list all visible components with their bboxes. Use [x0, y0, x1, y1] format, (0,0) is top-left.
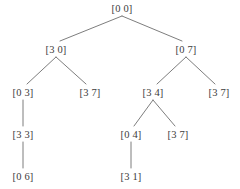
tree-node: [3 3] — [12, 129, 33, 140]
tree-node: [0 4] — [120, 129, 141, 140]
tree-edge — [56, 57, 86, 84]
tree-diagram: [0 0][3 0][0 7][0 3][3 7][3 4][3 7][3 3]… — [0, 0, 240, 189]
tree-edge — [134, 100, 153, 126]
tree-edge — [122, 16, 182, 41]
tree-node: [3 7] — [208, 87, 229, 98]
tree-node: [3 7] — [167, 129, 188, 140]
tree-edge — [27, 57, 56, 84]
tree-edge — [60, 16, 122, 41]
tree-node: [0 7] — [175, 44, 196, 55]
tree-node: [0 0] — [111, 3, 132, 14]
tree-edge — [157, 57, 186, 84]
tree-node: [0 6] — [12, 171, 33, 182]
tree-node: [3 7] — [79, 87, 100, 98]
tree-node: [3 1] — [120, 171, 141, 182]
tree-node: [3 0] — [45, 44, 66, 55]
tree-edge — [186, 57, 215, 84]
tree-edge-layer — [0, 0, 240, 189]
tree-edge — [153, 100, 175, 126]
tree-node: [0 3] — [12, 87, 33, 98]
tree-node: [3 4] — [142, 87, 163, 98]
